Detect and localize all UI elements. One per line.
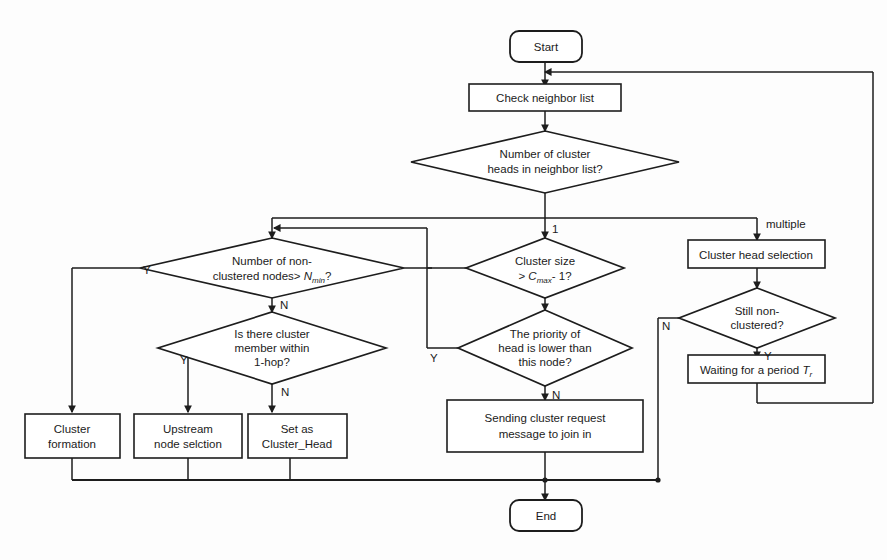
clustersize-shape [466,238,624,298]
junction-dot-bus-center [542,477,547,482]
member1hop-line1: Is there cluster [234,328,310,340]
clustersize-line2-post: - 1? [552,270,572,282]
member1hop-line3: 1-hop? [254,356,290,368]
node-cluster-formation: Cluster formation [25,414,120,458]
upstream-shape [134,414,242,458]
edge-label-still-no: N [662,320,670,332]
clustersize-line1: Cluster size [515,255,575,267]
node-sending-cluster-request: Sending cluster request message to join … [447,400,643,452]
clusterformation-shape [25,414,120,458]
sendrequest-shape [447,400,643,452]
priority-line3: this node? [518,356,571,368]
edge-label-heads-multiple: multiple [766,218,806,230]
still-shape [679,288,835,348]
nonclustered-line2-pre: clustered nodes> [213,270,304,282]
clustersize-line2-sub: max [537,276,553,285]
nonclustered-line1: Number of non- [232,255,312,267]
end-label: End [536,510,556,522]
clusterformation-line2: formation [48,438,96,450]
clustersize-line2-pre: > [518,270,528,282]
upstream-line1: Upstream [163,423,213,435]
edge-label-nonclustered-no: N [280,299,288,311]
waiting-sub: r [809,370,812,379]
node-is-there-cluster-member: Is there cluster member within 1-hop? [158,312,386,384]
setclusterhead-shape [248,414,347,458]
node-set-as-cluster-head: Set as Cluster_Head [248,414,347,458]
edge-label-member-yes: Y [180,354,188,366]
edge-label-member-no: N [281,386,289,398]
node-still-nonclustered: Still non- clustered? [679,288,835,348]
check-neighbor-label: Check neighbor list [496,92,595,104]
still-line2: clustered? [730,319,783,331]
node-upstream-node-selection: Upstream node selction [134,414,242,458]
node-cluster-head-selection: Cluster head selection [688,240,825,268]
clusterformation-line1: Cluster [54,423,91,435]
sendrequest-line2: message to join in [499,428,592,440]
edge-label-still-yes: Y [764,350,772,362]
waiting-pre: Waiting for a period [700,364,802,376]
node-check-neighbor-list: Check neighbor list [469,84,621,111]
upstream-line2: node selction [154,438,222,450]
node-cluster-size: Cluster size > Cmax- 1? [466,238,624,298]
member1hop-line2: member within [235,342,310,354]
start-label: Start [534,41,559,53]
nonclustered-line2-post: ? [325,270,331,282]
node-number-of-nonclustered-nodes: Number of non- clustered nodes> Nmin? [140,238,404,298]
junction-dot-bus-right [655,477,660,482]
edge-label-priority-no: N [552,389,560,401]
still-line1: Still non- [735,305,780,317]
sendrequest-line1: Sending cluster request [485,412,607,424]
node-number-of-cluster-heads: Number of cluster heads in neighbor list… [411,131,679,193]
flowchart-svg: Start Check neighbor list Number of clus… [0,0,887,560]
priority-line1: The priority of [510,328,581,340]
numheads-line1: Number of cluster [500,148,591,160]
node-waiting-period: Waiting for a period Tr [688,355,825,383]
edge-label-nonclustered-yes: Y [143,264,151,276]
edge-label-clustersize-yes: Y [430,352,438,364]
node-priority-of-head: The priority of head is lower than this … [458,310,632,386]
setclusterhead-line2: Cluster_Head [262,438,332,450]
priority-line2: head is lower than [498,342,591,354]
nonclustered-shape [140,238,404,298]
setclusterhead-line1: Set as [281,423,314,435]
numheads-shape [411,131,679,193]
headselection-label: Cluster head selection [699,249,813,261]
edge-label-heads-one: 1 [552,223,558,235]
nonclustered-line2-sub: min [312,276,325,285]
node-end: End [510,500,582,531]
node-start: Start [510,31,582,62]
flowchart-canvas: Start Check neighbor list Number of clus… [0,0,887,560]
numheads-line2: heads in neighbor list? [487,163,602,175]
